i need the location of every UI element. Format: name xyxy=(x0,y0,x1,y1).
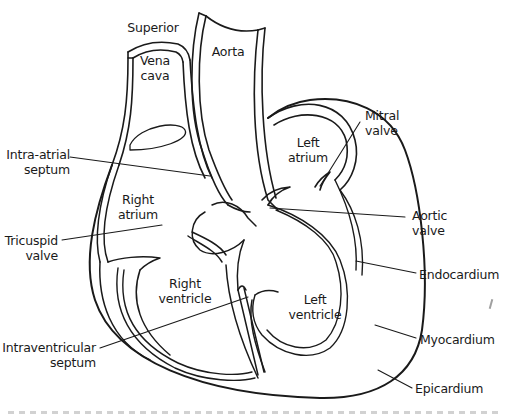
intraventricular-septum-shape xyxy=(226,265,265,378)
label-right-ventricle-line1: Right xyxy=(150,276,220,291)
label-intraventricular-septum-line2: septum xyxy=(0,355,96,370)
label-aortic-valve-line2: valve xyxy=(412,223,445,238)
right-atrium-wall xyxy=(97,125,185,360)
label-aortic-valve-line1: Aortic xyxy=(412,208,447,223)
label-left-atrium-line1: Left xyxy=(283,135,333,150)
label-endocardium: Endocardium xyxy=(419,267,499,282)
label-tricuspid-valve-line1: Tricuspid xyxy=(0,233,58,248)
leader-aortic-valve xyxy=(270,208,405,217)
label-right-atrium-line1: Right xyxy=(113,192,163,207)
label-intra-atrial-septum-line2: septum xyxy=(0,162,70,177)
leader-myocardium xyxy=(375,325,416,338)
cropped-caption-fragment xyxy=(0,409,506,415)
label-vena-cava-line1: Vena xyxy=(130,53,180,68)
label-mitral-valve-line2: valve xyxy=(365,123,398,138)
label-intra-atrial-septum-line1: Intra-atrial xyxy=(0,147,70,162)
label-left-ventricle-line2: ventricle xyxy=(280,307,350,322)
label-vena-cava-line2: cava xyxy=(130,68,180,83)
label-right-ventricle-line2: ventricle xyxy=(150,291,220,306)
label-mitral-valve-line1: Mitral xyxy=(365,108,399,123)
label-left-ventricle-line1: Left xyxy=(280,292,350,307)
left-ventricle-endocardium xyxy=(253,180,363,355)
label-aorta: Aorta xyxy=(203,44,253,59)
label-tricuspid-valve-line2: valve xyxy=(0,248,58,263)
label-right-atrium-line2: atrium xyxy=(113,207,163,222)
leader-tricuspid-valve xyxy=(62,225,162,240)
label-myocardium: Myocardium xyxy=(420,332,495,347)
label-epicardium: Epicardium xyxy=(415,381,483,396)
leader-intra-atrial-septum xyxy=(70,157,210,176)
label-superior: Superior xyxy=(118,20,188,35)
leader-endocardium xyxy=(356,261,416,273)
heart-diagram: Superior Vena cava Aorta Left atrium Mit… xyxy=(0,0,506,415)
aorta-shape xyxy=(192,13,278,212)
label-left-atrium-line2: atrium xyxy=(283,150,333,165)
label-intraventricular-septum-line1: Intraventricular xyxy=(0,340,96,355)
